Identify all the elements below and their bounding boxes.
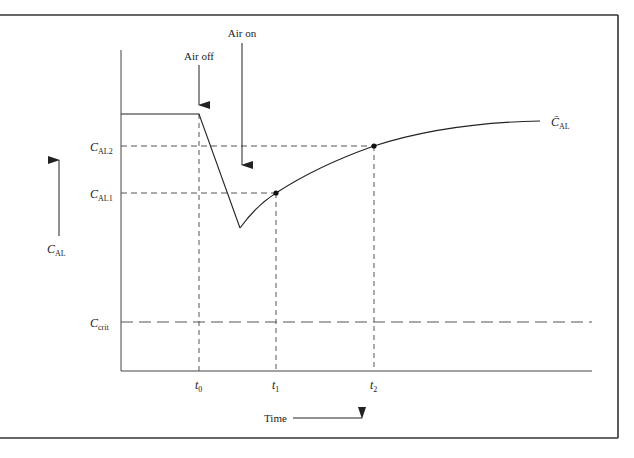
air-on-label: Air on: [228, 27, 257, 39]
asymptote-label: C̄AL: [551, 115, 570, 131]
c-al-curve: [121, 114, 540, 228]
t0-label: t0: [195, 378, 202, 394]
point-t2: [371, 143, 376, 148]
plot-axes: [121, 50, 592, 371]
x-axis-label: Time: [264, 412, 287, 424]
air-off-label: Air off: [184, 50, 214, 62]
horizontal-reference-lines: [121, 146, 592, 322]
diagram-figure: Air off Air on CAL2 CAL1 Ccrit CAL t0 t1…: [0, 0, 634, 458]
c-al1-label: CAL1: [90, 187, 113, 203]
point-t1: [273, 190, 278, 195]
t2-label: t2: [370, 378, 377, 394]
c-al2-label: CAL2: [90, 140, 113, 156]
y-axis-label: CAL: [47, 242, 66, 258]
c-crit-label: Ccrit: [90, 316, 109, 332]
vertical-reference-lines: [199, 114, 374, 371]
figure-frame: [0, 15, 618, 438]
t1-label: t1: [272, 378, 279, 394]
